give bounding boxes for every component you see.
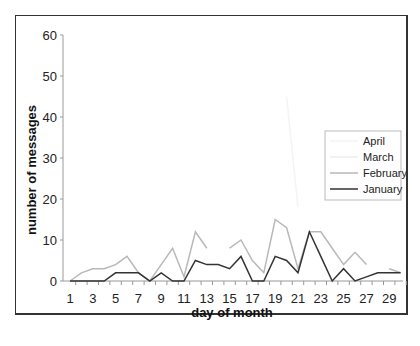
x-tick-label: 9 [158,291,165,306]
legend-label-march: March [363,151,394,163]
y-tick-label: 30 [43,151,57,166]
y-tick-label: 10 [43,233,57,248]
series-line-february [230,220,367,273]
y-tick-label: 0 [50,274,57,289]
x-tick-label: 19 [268,291,282,306]
x-tick-label: 15 [222,291,236,306]
chart-legend: AprilMarchFebruaryJanuary [325,131,408,200]
x-tick-label: 5 [112,291,119,306]
x-tick-label: 25 [336,291,350,306]
legend-label-february: February [363,167,408,179]
line-chart: 01020304050601357911131517192123252729da… [0,0,420,346]
x-tick-label: 7 [135,291,142,306]
legend-label-january: January [363,183,403,195]
x-axis-title: day of month [191,305,273,320]
y-tick-label: 40 [43,110,57,125]
x-tick-label: 1 [66,291,73,306]
x-tick-label: 17 [245,291,259,306]
y-tick-label: 50 [43,69,57,84]
x-tick-label: 11 [177,291,191,306]
y-tick-label: 60 [43,28,57,43]
x-tick-label: 13 [200,291,214,306]
x-tick-label: 23 [314,291,328,306]
y-tick-label: 20 [43,192,57,207]
legend-label-april: April [363,135,385,147]
x-tick-label: 29 [382,291,396,306]
x-tick-label: 3 [89,291,96,306]
x-tick-label: 27 [359,291,373,306]
y-axis-title: number of messages [24,105,39,235]
x-tick-label: 21 [291,291,305,306]
series-line-april [287,97,298,208]
